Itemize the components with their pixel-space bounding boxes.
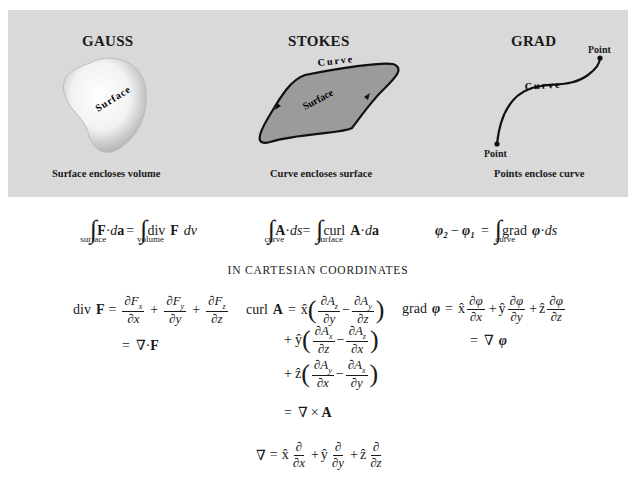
grad-point-bottom-icon bbox=[494, 141, 499, 146]
stokes-title: STOKES bbox=[288, 33, 350, 50]
stokes-curve-label: Curve bbox=[317, 53, 355, 68]
grad-point-bottom-label: Point bbox=[484, 148, 507, 159]
curl-cartesian-line3: +ẑ( ∂Ay∂x − ∂Ax∂y ) bbox=[284, 358, 378, 391]
grad-point-top-label: Point bbox=[588, 44, 611, 55]
curl-cartesian-line1: curlA = x̂( ∂Az∂y − ∂Ay∂z ) bbox=[246, 294, 385, 327]
grad-cartesian-line1: gradφ = x̂ ∂φ∂x + ŷ ∂φ∂y + ẑ ∂φ∂z bbox=[402, 294, 567, 325]
grad-theorem: φ₂ − φ₁ = ∫ gradφ·ds curve bbox=[435, 218, 545, 244]
section-title: IN CARTESIAN COORDINATES bbox=[0, 264, 636, 276]
stokes-caption: Curve encloses surface bbox=[270, 168, 372, 179]
gauss-title: GAUSS bbox=[82, 33, 134, 50]
grad-title: GRAD bbox=[511, 33, 556, 50]
gauss-caption: Surface encloses volume bbox=[52, 168, 160, 179]
stokes-surface-shape bbox=[260, 64, 399, 143]
grad-curve-path bbox=[497, 58, 600, 144]
grad-point-top-icon bbox=[597, 55, 602, 60]
div-cartesian-line2: =∇·F bbox=[122, 337, 159, 354]
curl-cartesian-line4: =∇×A bbox=[284, 404, 332, 421]
grad-curve-label: Curve bbox=[524, 78, 561, 92]
div-cartesian-line1: divF = ∂Fx∂x + ∂Fy∂y + ∂Fz∂z bbox=[73, 294, 230, 327]
grad-caption: Points enclose curve bbox=[494, 168, 584, 179]
curl-cartesian-line2: +ŷ( ∂Ax∂z − ∂Az∂x ) bbox=[284, 324, 379, 357]
stokes-theorem: ∫ A·ds curve = ∫ curlA·da surface bbox=[268, 218, 373, 244]
gauss-theorem: ∫ F·da surface = ∫ divFdv volume bbox=[90, 218, 194, 244]
grad-cartesian-line2: =∇φ bbox=[470, 332, 507, 349]
nabla-definition: ∇ = x̂ ∂∂x + ŷ ∂∂y + ẑ ∂∂z bbox=[256, 440, 386, 471]
